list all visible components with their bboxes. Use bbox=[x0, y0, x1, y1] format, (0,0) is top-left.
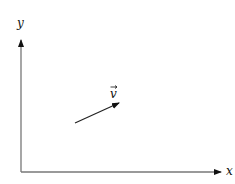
svg-text:v: v bbox=[110, 87, 117, 101]
vector-v bbox=[75, 103, 119, 123]
vector-v-label: v bbox=[110, 86, 117, 102]
y-axis-label: y bbox=[16, 16, 24, 30]
coordinate-diagram: y x v bbox=[0, 0, 235, 184]
x-axis-label: x bbox=[226, 164, 233, 178]
